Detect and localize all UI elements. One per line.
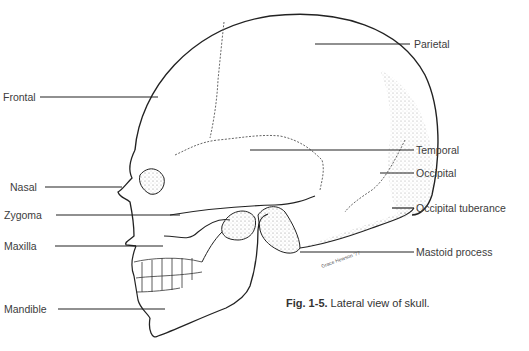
label-maxilla: Maxilla xyxy=(4,240,37,252)
figure-caption: Fig. 1-5. Lateral view of skull. xyxy=(286,297,430,309)
mastoid-process xyxy=(258,207,300,253)
teeth xyxy=(134,258,202,292)
caption-text: Lateral view of skull. xyxy=(328,297,430,309)
caption-number: Fig. 1-5. xyxy=(286,297,328,309)
label-parietal: Parietal xyxy=(414,38,450,50)
label-occipital-tuberance: Occipital tuberance xyxy=(416,202,506,214)
skull-figure: Grace Hewson '77 Parietal Frontal Tempor… xyxy=(0,0,529,351)
mandible-notch xyxy=(202,232,222,262)
coronal-suture xyxy=(210,22,224,138)
label-zygoma: Zygoma xyxy=(4,209,42,221)
maxilla-outline xyxy=(132,246,150,318)
squamosal-suture xyxy=(175,135,323,190)
label-occipital: Occipital xyxy=(416,167,456,179)
condyle xyxy=(222,211,256,240)
zygoma-lower xyxy=(164,220,230,238)
orbit xyxy=(139,169,164,194)
label-mastoid-process: Mastoid process xyxy=(416,246,492,258)
leader-lines xyxy=(40,44,414,309)
label-temporal: Temporal xyxy=(416,144,459,156)
frontal-profile xyxy=(118,150,136,246)
label-frontal: Frontal xyxy=(3,91,36,103)
label-nasal: Nasal xyxy=(10,181,37,193)
label-mandible: Mandible xyxy=(4,303,47,315)
occipital-base xyxy=(300,208,414,248)
